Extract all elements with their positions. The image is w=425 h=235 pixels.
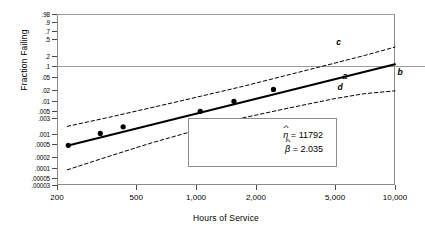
eta-value: 11792 (299, 130, 323, 140)
curve-label-b: b (397, 67, 402, 77)
x-tick-label: 2,000 (246, 193, 266, 202)
beta-symbol: β (285, 143, 290, 156)
y-tick-label: .7 (45, 28, 50, 35)
x-tick-mark (136, 185, 137, 190)
curve-label-d: d (338, 82, 343, 92)
y-tick-label: .00005 (31, 174, 50, 181)
y-tick-label: .0001 (35, 164, 50, 171)
x-tick-label: 200 (50, 193, 63, 202)
x-tick-label: 1,000 (186, 193, 206, 202)
data-point-marker (121, 124, 126, 129)
weibull-probability-plot: Fraction Failing .98.9.7.5.2.1.05.02.01.… (0, 0, 425, 235)
data-point-marker (98, 131, 103, 136)
series-c (67, 47, 395, 126)
y-axis-title: Fraction Failing (19, 0, 29, 120)
y-tick-label: .0005 (35, 141, 50, 148)
data-point-marker (66, 143, 71, 148)
parameter-annotation-box: η = 11792 β = 2.035 (188, 118, 337, 167)
x-tick-mark (256, 185, 257, 190)
x-tick-label: 500 (129, 193, 142, 202)
x-tick-label: 5,000 (325, 193, 345, 202)
y-tick-label: .1 (45, 63, 50, 70)
y-tick-label: .9 (45, 18, 50, 25)
y-tick-label: .003 (38, 115, 50, 122)
y-tick-label: .05 (42, 73, 50, 80)
y-tick-label: .001 (38, 131, 50, 138)
y-tick-label: .98 (42, 11, 50, 18)
x-tick-mark (57, 185, 58, 190)
curve-label-a: a (343, 71, 348, 81)
data-point-marker (271, 87, 276, 92)
beta-equals: = (293, 144, 298, 154)
data-point-marker (198, 109, 203, 114)
beta-estimate-row: β = 2.035 (285, 143, 323, 156)
data-point-marker (231, 99, 236, 104)
x-tick-mark (335, 185, 336, 190)
beta-value: 2.035 (300, 144, 323, 154)
x-tick-label: 10,000 (383, 193, 407, 202)
x-tick-mark (196, 185, 197, 190)
y-tick-label: .0002 (35, 154, 50, 161)
y-tick-label: .2 (45, 52, 50, 59)
curve-label-c: c (336, 37, 341, 47)
y-tick-label: .5 (45, 36, 50, 43)
eta-equals: = (291, 130, 296, 140)
x-tick-mark (395, 185, 396, 190)
x-axis-title: Hours of Service (57, 213, 395, 223)
y-tick-label: .005 (38, 107, 50, 114)
y-tick-label: .01 (42, 97, 50, 104)
y-tick-label: .00003 (31, 182, 50, 189)
y-tick-label: .02 (42, 87, 50, 94)
